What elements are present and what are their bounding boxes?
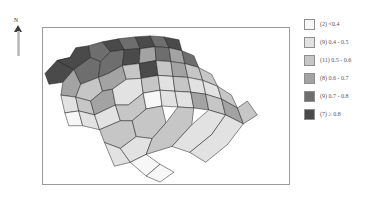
legend-item[interactable]: (2) <0.4: [304, 15, 376, 33]
county-polygon[interactable]: [158, 75, 175, 91]
legend: (2) <0.4 (9) 0.4 - 0.5 (11) 0.5 - 0.6 (8…: [304, 15, 376, 123]
legend-label-class-2: (11) 0.5 - 0.6: [320, 56, 351, 64]
county-map: [43, 28, 289, 184]
legend-label-class-3: (8) 0.6 - 0.7: [320, 74, 349, 82]
legend-item[interactable]: (7) ≥ 0.8: [304, 105, 376, 123]
choropleth-figure: N (2) <0.4 (9) 0.4 - 0.5 (11) 0.5 - 0.6 …: [0, 0, 376, 212]
legend-item[interactable]: (8) 0.6 - 0.7: [304, 69, 376, 87]
north-arrow-shaft: [18, 31, 19, 56]
legend-swatch-class-1: [304, 37, 315, 48]
legend-label-class-4: (9) 0.7 - 0.8: [320, 92, 349, 100]
legend-label-class-5: (7) ≥ 0.8: [320, 110, 341, 118]
county-polygon[interactable]: [156, 61, 173, 77]
legend-label-class-0: (2) <0.4: [320, 20, 339, 28]
legend-swatch-class-2: [304, 55, 315, 66]
county-polygon[interactable]: [143, 90, 162, 109]
county-polygon[interactable]: [155, 47, 171, 62]
legend-item[interactable]: (9) 0.4 - 0.5: [304, 33, 376, 51]
legend-swatch-class-0: [304, 19, 315, 30]
legend-swatch-class-4: [304, 91, 315, 102]
county-polygon[interactable]: [169, 48, 185, 64]
legend-item[interactable]: (11) 0.5 - 0.6: [304, 51, 376, 69]
north-arrow-label: N: [14, 17, 18, 23]
legend-item[interactable]: (9) 0.7 - 0.8: [304, 87, 376, 105]
legend-swatch-class-3: [304, 73, 315, 84]
legend-swatch-class-5: [304, 109, 315, 120]
county-polygon[interactable]: [122, 49, 140, 66]
legend-label-class-1: (9) 0.4 - 0.5: [320, 38, 349, 46]
north-arrow: N: [12, 18, 28, 56]
map-panel: [42, 27, 290, 185]
